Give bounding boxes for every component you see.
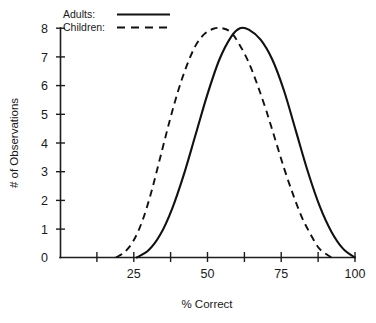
y-axis-title: # of Observations	[8, 98, 20, 188]
x-tick-label-100: 100	[345, 267, 366, 281]
x-tick-label-75: 75	[274, 267, 288, 281]
y-tick-label-4: 4	[41, 137, 48, 151]
chart-container: Adults: Children: 8 7 6 5 4 3	[0, 0, 376, 323]
observations-distribution-chart: Adults: Children: 8 7 6 5 4 3	[0, 0, 376, 323]
legend-label-adults: Adults:	[63, 8, 95, 20]
legend-label-children: Children:	[63, 21, 105, 33]
y-axis-tick-labels: 8 7 6 5 4 3 2 1 0	[41, 22, 48, 265]
y-tick-label-3: 3	[41, 165, 48, 179]
y-tick-label-7: 7	[41, 51, 48, 65]
x-tick-label-25: 25	[127, 267, 141, 281]
x-tick-label-50: 50	[201, 267, 215, 281]
x-axis-title: % Correct	[181, 298, 233, 310]
y-tick-label-2: 2	[41, 194, 48, 208]
y-tick-label-6: 6	[41, 79, 48, 93]
y-tick-label-8: 8	[41, 22, 48, 36]
y-tick-label-1: 1	[41, 223, 48, 237]
y-tick-label-5: 5	[41, 108, 48, 122]
y-tick-label-0: 0	[41, 251, 48, 265]
